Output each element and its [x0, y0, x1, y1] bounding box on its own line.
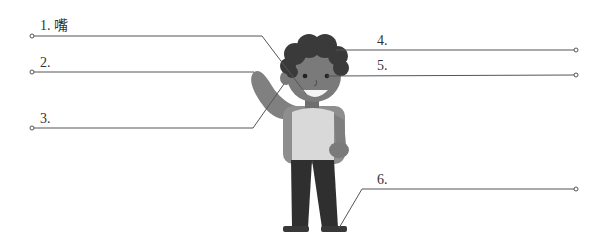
left-shoe: [283, 226, 309, 232]
label-5-number: 5.: [377, 58, 388, 73]
hand: [329, 142, 349, 158]
label-1-answer[interactable]: 嘴: [54, 18, 68, 33]
label-4-number: 4.: [377, 33, 388, 48]
label-6-number: 6.: [377, 172, 388, 187]
label-3: 3.: [40, 112, 51, 126]
right-leg: [312, 160, 338, 228]
shirt: [292, 108, 334, 160]
leader-line-3: [32, 84, 284, 128]
label-3-number: 3.: [40, 111, 51, 126]
left-leg: [291, 160, 312, 228]
label-1-number: 1.: [40, 18, 51, 33]
leader-line-6: [339, 189, 576, 228]
right-shoe: [321, 226, 347, 232]
leader-line-5: [327, 75, 576, 76]
label-1: 1. 嘴: [40, 19, 68, 33]
label-2-number: 2.: [40, 55, 51, 70]
label-2: 2.: [40, 56, 51, 70]
left-eye: [303, 74, 308, 79]
label-4: 4.: [377, 34, 388, 48]
boy-figure: [251, 34, 349, 232]
figure-canvas: [0, 0, 609, 247]
label-5: 5.: [377, 59, 388, 73]
label-6: 6.: [377, 173, 388, 187]
